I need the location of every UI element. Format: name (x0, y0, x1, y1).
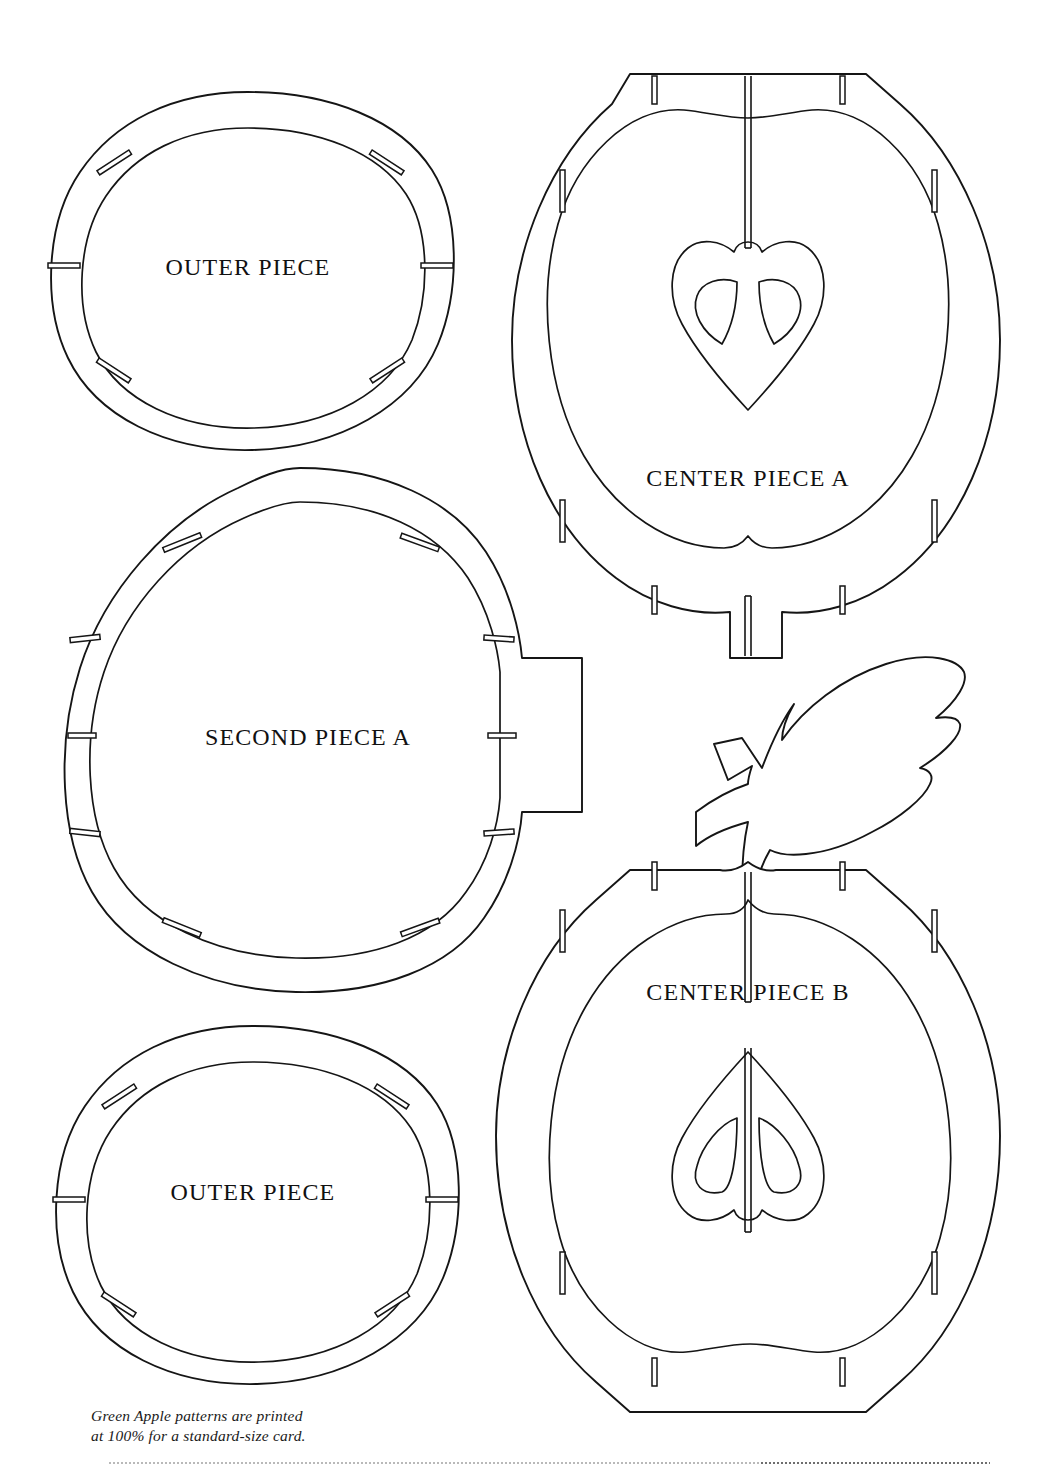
leaf-stem-outline (696, 657, 965, 886)
second-piece-a-label: SECOND PIECE A (205, 724, 411, 750)
footnote-line-1: Green Apple patterns are printed (91, 1406, 521, 1426)
outer-piece-bottom-outline (56, 1026, 459, 1384)
footnote: Green Apple patterns are printed at 100%… (91, 1406, 521, 1446)
outer-piece-top-label: OUTER PIECE (166, 254, 331, 280)
outer-piece-bottom-label: OUTER PIECE (171, 1179, 336, 1205)
center-piece-b-outline (496, 862, 1000, 1412)
piece-outer-piece-top[interactable]: OUTER PIECE (48, 92, 454, 450)
center-piece-b-label: CENTER PIECE B (646, 979, 849, 1005)
bottom-dotted-rule-dark (760, 1462, 990, 1464)
pattern-sheet: OUTER PIECE (0, 0, 1056, 1471)
piece-second-piece-a[interactable]: SECOND PIECE A (65, 468, 582, 992)
piece-outer-piece-bottom[interactable]: OUTER PIECE (53, 1026, 459, 1384)
piece-center-piece-a[interactable]: CENTER PIECE A (512, 74, 1000, 658)
pattern-canvas: OUTER PIECE (0, 0, 1056, 1471)
center-piece-a-label: CENTER PIECE A (646, 465, 849, 491)
center-piece-a-outline (512, 74, 1000, 658)
piece-leaf-stem[interactable] (696, 657, 965, 886)
footnote-line-2: at 100% for a standard-size card. (91, 1426, 521, 1446)
piece-center-piece-b[interactable]: CENTER PIECE B (496, 862, 1000, 1412)
